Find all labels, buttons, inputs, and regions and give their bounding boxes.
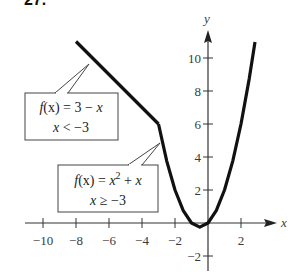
figure: 27. x −10 −8 −6 −4 −2 2 y 10 8 6 4 2 −2 (0, 0, 292, 279)
callout-box-linear: f(x) = 3 − x x < −3 (25, 64, 118, 140)
y-axis-label: y (202, 11, 210, 26)
x-tick-label: −6 (102, 233, 116, 248)
callout-2-formula: f(x) = x2 + x (74, 170, 142, 189)
parabola-x-squared-plus-x (159, 42, 256, 227)
callout-1-formula: f(x) = 3 − x (39, 100, 103, 116)
callout-1-domain: x < −3 (52, 120, 89, 135)
callout-box-quadratic: f(x) = x2 + x x ≥ −3 (58, 143, 160, 212)
callout-2-domain: x ≥ −3 (89, 193, 126, 208)
x-tick-label: 2 (238, 233, 245, 248)
x-tick-label: −10 (33, 233, 53, 248)
x-axis: x −10 −8 −6 −4 −2 2 (25, 215, 287, 248)
y-tick-label: 8 (195, 84, 202, 99)
x-axis-label: x (280, 215, 287, 230)
y-axis: y 10 8 6 4 2 −2 (187, 11, 213, 271)
y-tick-label: −2 (187, 249, 201, 264)
x-tick-label: −2 (168, 233, 182, 248)
function-graph: 27. x −10 −8 −6 −4 −2 2 y 10 8 6 4 2 −2 (0, 0, 292, 279)
problem-number: 27. (24, 0, 46, 8)
y-tick-label: 6 (195, 117, 202, 132)
y-tick-label: 10 (188, 51, 201, 66)
y-tick-label: 2 (195, 183, 202, 198)
x-tick-label: −8 (69, 233, 83, 248)
y-tick-label: 4 (195, 150, 202, 165)
x-tick-label: −4 (135, 233, 149, 248)
